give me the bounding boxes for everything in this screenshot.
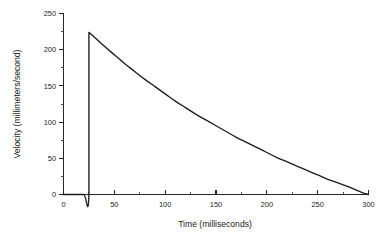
- x-tick-label: 200: [261, 200, 273, 209]
- x-axis-title: Time (milliseconds): [178, 219, 252, 229]
- axes-group: [64, 14, 369, 195]
- x-tick-label: 0: [61, 200, 65, 209]
- y-tick-label: 0: [52, 190, 56, 199]
- x-tick-label: 100: [159, 200, 171, 209]
- y-axis-tick-labels: 050100150200250: [44, 9, 56, 199]
- velocity-data-curve: [64, 32, 369, 206]
- chart-canvas: 050100150200250 050100150200250300 Time …: [0, 0, 391, 235]
- y-tick-label: 200: [44, 45, 56, 54]
- x-axis-tick-labels: 050100150200250300: [61, 200, 374, 209]
- x-tick-label: 50: [110, 200, 118, 209]
- y-tick-label: 250: [44, 9, 56, 18]
- y-axis-title: Velocity (millimeters/second): [12, 49, 22, 158]
- series-group: [64, 32, 369, 206]
- y-tick-label: 100: [44, 118, 56, 127]
- x-axis-ticks: [64, 190, 369, 195]
- y-axis-ticks: [59, 14, 64, 195]
- x-tick-label: 300: [362, 200, 374, 209]
- x-tick-label: 150: [210, 200, 222, 209]
- velocity-time-chart: 050100150200250 050100150200250300 Time …: [0, 0, 391, 235]
- x-tick-label: 250: [311, 200, 323, 209]
- y-tick-label: 50: [48, 154, 56, 163]
- y-tick-label: 150: [44, 82, 56, 91]
